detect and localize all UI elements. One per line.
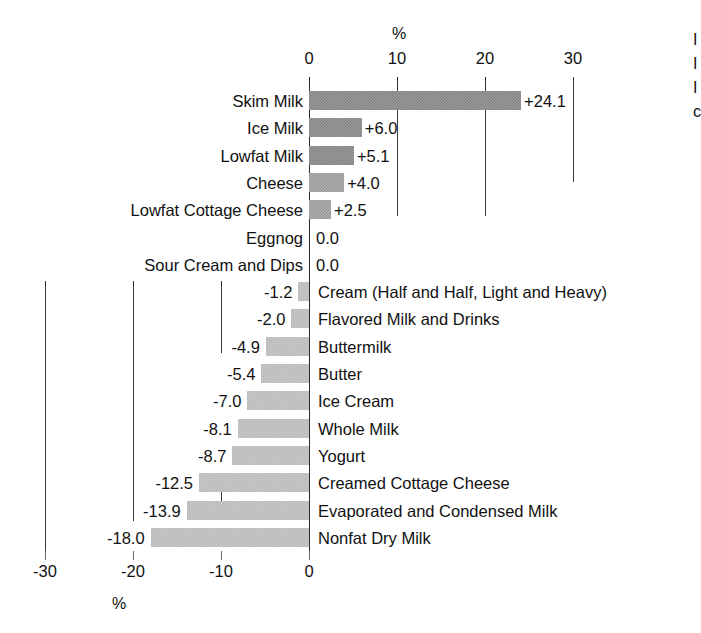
percent-change-bar-chart: % 0102030 Skim Milk+24.1Ice Milk+6.0Lowf…	[0, 0, 701, 633]
bar	[309, 200, 331, 219]
category-label: Lowfat Milk	[220, 143, 303, 169]
category-label: Flavored Milk and Drinks	[318, 306, 500, 332]
bar	[232, 446, 309, 465]
category-label: Cheese	[246, 170, 303, 196]
top-tick-label: 10	[372, 50, 422, 67]
category-label: Creamed Cottage Cheese	[318, 470, 510, 496]
value-label: +4.0	[347, 170, 380, 196]
bar	[247, 391, 309, 410]
value-label: +24.1	[524, 88, 566, 114]
bar	[309, 173, 344, 192]
category-label: Yogurt	[318, 443, 365, 469]
top-tick-mark	[309, 77, 310, 86]
bar-row: Cheese+4.0	[0, 170, 701, 196]
bar-row: Buttermilk-4.9	[0, 334, 701, 360]
top-tick-label: 30	[548, 50, 598, 67]
bar	[309, 91, 521, 110]
category-label: Sour Cream and Dips	[144, 252, 303, 278]
bottom-tick-label: -20	[103, 563, 163, 580]
top-tick-mark	[397, 77, 398, 86]
bar	[261, 364, 309, 383]
page-edge-fragment: I	[693, 56, 701, 72]
bar-row: Ice Milk+6.0	[0, 115, 701, 141]
bar	[309, 118, 362, 137]
bar-row: Evaporated and Condensed Milk-13.9	[0, 498, 701, 524]
bar	[187, 501, 309, 520]
bottom-tick-label: -30	[15, 563, 75, 580]
bottom-tick-mark	[309, 551, 310, 560]
value-label: 0.0	[316, 225, 339, 251]
bottom-tick-label: -10	[191, 563, 251, 580]
bar-row: Whole Milk-8.1	[0, 416, 701, 442]
category-label: Ice Milk	[247, 115, 303, 141]
bar	[266, 337, 309, 356]
bar-row: Skim Milk+24.1	[0, 88, 701, 114]
top-tick-label: 20	[460, 50, 510, 67]
value-label: 0.0	[316, 252, 339, 278]
top-tick-label: 0	[284, 50, 334, 67]
bottom-tick-mark	[133, 551, 134, 560]
category-label: Cream (Half and Half, Light and Heavy)	[318, 279, 607, 305]
page-edge-fragment: I	[693, 80, 701, 96]
value-label: +2.5	[334, 197, 367, 223]
category-label: Whole Milk	[318, 416, 399, 442]
category-label: Evaporated and Condensed Milk	[318, 498, 557, 524]
top-axis-unit-label: %	[392, 26, 406, 42]
value-label: -2.0	[257, 306, 285, 332]
bar	[151, 528, 309, 547]
top-tick-mark	[485, 77, 486, 86]
value-label: -13.9	[143, 498, 181, 524]
bar-row: Ice Cream-7.0	[0, 388, 701, 414]
bar-row: Creamed Cottage Cheese-12.5	[0, 470, 701, 496]
category-label: Buttermilk	[318, 334, 391, 360]
bar-row: Lowfat Cottage Cheese+2.5	[0, 197, 701, 223]
bar-row: Sour Cream and Dips0.0	[0, 252, 701, 278]
value-label: -1.2	[264, 279, 292, 305]
bar-row: Flavored Milk and Drinks-2.0	[0, 306, 701, 332]
value-label: -18.0	[107, 525, 145, 551]
bar	[298, 282, 309, 301]
value-label: -8.7	[198, 443, 226, 469]
bottom-tick-mark	[221, 551, 222, 560]
value-label: +5.1	[357, 143, 390, 169]
category-label: Butter	[318, 361, 362, 387]
value-label: -12.5	[155, 470, 193, 496]
bar-row: Butter-5.4	[0, 361, 701, 387]
value-label: -5.4	[227, 361, 255, 387]
category-label: Eggnog	[246, 225, 303, 251]
bar-row: Lowfat Milk+5.1	[0, 143, 701, 169]
value-label: -7.0	[213, 388, 241, 414]
page-edge-fragment: c	[693, 104, 701, 120]
category-label: Skim Milk	[232, 88, 303, 114]
bottom-tick-mark	[45, 551, 46, 560]
bar-row: Yogurt-8.7	[0, 443, 701, 469]
category-label: Ice Cream	[318, 388, 394, 414]
bar-row: Eggnog0.0	[0, 225, 701, 251]
bar	[309, 146, 354, 165]
bar	[291, 309, 309, 328]
category-label: Nonfat Dry Milk	[318, 525, 431, 551]
category-label: Lowfat Cottage Cheese	[131, 197, 303, 223]
value-label: -8.1	[203, 416, 231, 442]
bar-row: Nonfat Dry Milk-18.0	[0, 525, 701, 551]
bottom-axis-unit-label: %	[112, 596, 126, 612]
bottom-tick-label: 0	[279, 563, 339, 580]
value-label: -4.9	[231, 334, 259, 360]
bar	[238, 419, 309, 438]
value-label: +6.0	[365, 115, 398, 141]
page-edge-fragment: I	[693, 32, 701, 48]
bar	[199, 473, 309, 492]
bar-row: Cream (Half and Half, Light and Heavy)-1…	[0, 279, 701, 305]
